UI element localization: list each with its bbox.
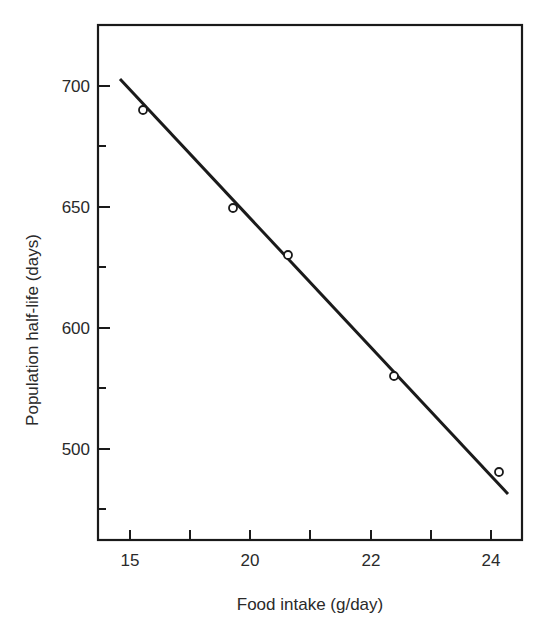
data-point-marker (284, 251, 292, 259)
x-tick-label: 20 (241, 551, 260, 570)
y-tick-label: 700 (62, 77, 90, 96)
x-axis-title: Food intake (g/day) (237, 595, 383, 614)
y-tick-label: 650 (62, 198, 90, 217)
fit-line (120, 79, 508, 494)
x-axis-ticks: 15202224 (121, 530, 501, 570)
regression-line (120, 79, 508, 494)
data-points (139, 106, 503, 476)
data-point-marker (229, 204, 237, 212)
data-point-marker (495, 468, 503, 476)
x-tick-label: 22 (362, 551, 381, 570)
x-tick-label: 24 (482, 551, 501, 570)
data-point-marker (139, 106, 147, 114)
y-tick-label: 500 (62, 440, 90, 459)
data-point-marker (390, 372, 398, 380)
chart: 15202224 700650600500 Food intake (g/day… (0, 0, 550, 633)
x-tick-label: 15 (121, 551, 140, 570)
y-tick-label: 600 (62, 319, 90, 338)
y-axis-ticks: 700650600500 (62, 77, 110, 509)
y-axis-title: Population half-life (days) (23, 234, 42, 426)
